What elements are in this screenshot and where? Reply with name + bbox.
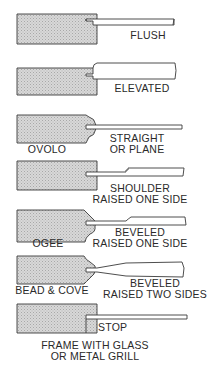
ovolo-stile-label: OVOLO (22, 144, 72, 155)
ogee-stile-label: OGEE (28, 238, 68, 249)
bead-cove-stile-label: BEAD & COVE (12, 285, 92, 296)
beveled-two-sides-label: BEVELED RAISED TWO SIDES (100, 278, 210, 300)
elevated-label: ELEVATED (107, 83, 177, 94)
straight-panel-label: STRAIGHT OR PLANE (102, 133, 172, 155)
beveled-one-side-label: BEVELED RAISED ONE SIDE (90, 227, 190, 249)
stop-label: STOP (98, 322, 132, 333)
shoulder-panel-label: SHOULDER RAISED ONE SIDE (90, 183, 190, 205)
flush-label: FLUSH (118, 30, 178, 41)
frame-with-glass-caption: FRAME WITH GLASS OR METAL GRILL (30, 340, 160, 362)
